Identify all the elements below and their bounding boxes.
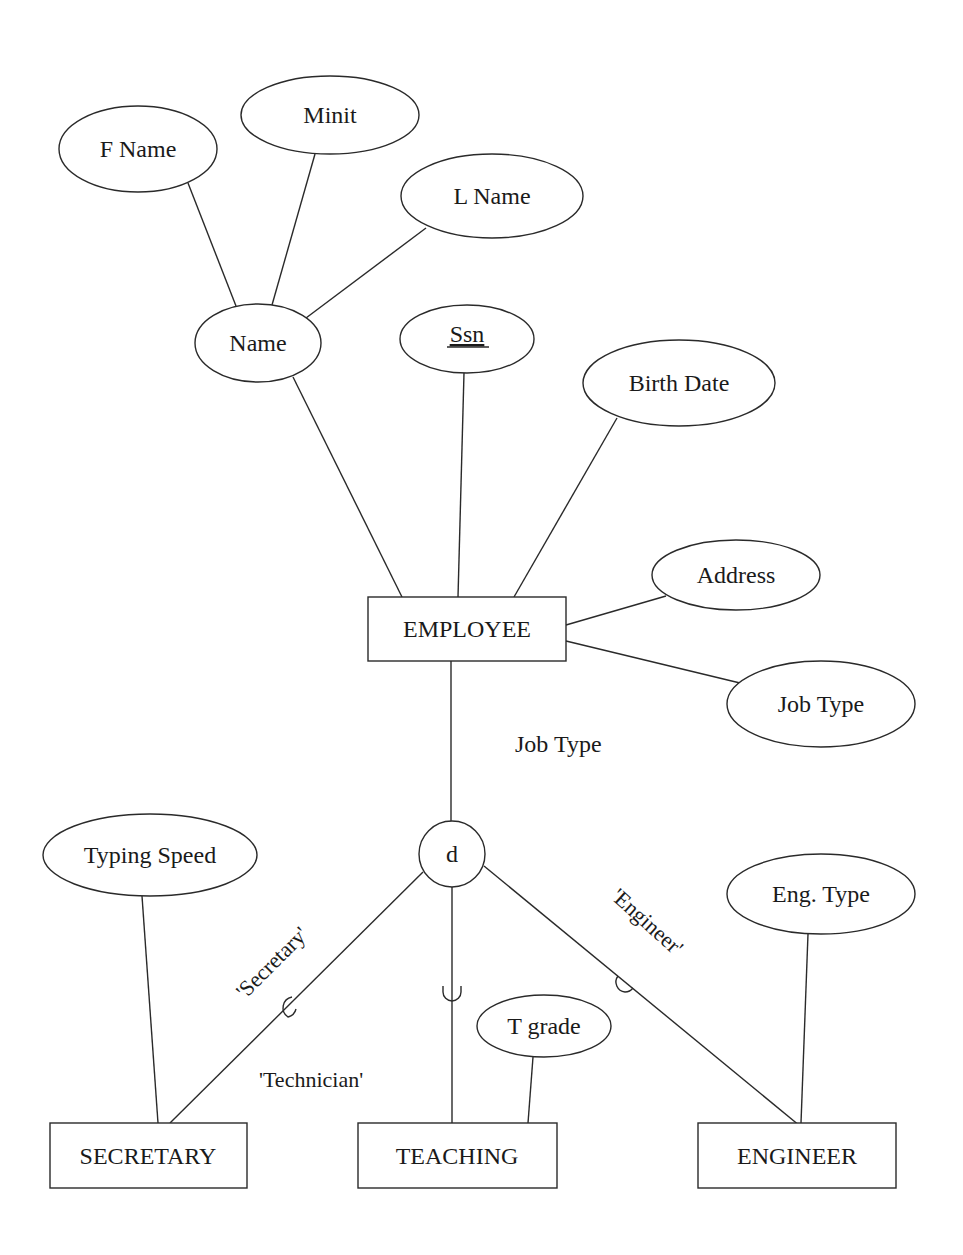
- entity-employee[interactable]: EMPLOYEE: [368, 597, 566, 661]
- er-diagram-canvas: F Name Minit L Name Name Ssn Birth Date …: [0, 0, 963, 1255]
- edge-engtype-engineer: [801, 934, 808, 1123]
- edge-fname-name: [188, 183, 236, 306]
- edge-minit-name: [272, 154, 315, 305]
- key-attribute-label: Ssn: [450, 321, 485, 347]
- attribute-label: L Name: [453, 183, 530, 209]
- attribute-name[interactable]: Name: [195, 304, 321, 382]
- subset-symbol-engineer-icon: [616, 976, 633, 992]
- attribute-label: F Name: [100, 136, 177, 162]
- attribute-label: T grade: [507, 1013, 581, 1039]
- attribute-label: Name: [229, 330, 286, 356]
- attribute-engtype[interactable]: Eng. Type: [727, 854, 915, 934]
- defining-attribute-label: Job Type: [515, 731, 602, 757]
- branch-label-engineer: 'Engineer': [607, 883, 689, 960]
- entity-teaching[interactable]: TEACHING: [358, 1123, 557, 1188]
- disjoint-symbol: d: [446, 841, 458, 867]
- edge-typingspeed-secretary: [142, 896, 158, 1123]
- attribute-typingspeed[interactable]: Typing Speed: [43, 814, 257, 896]
- entity-label: ENGINEER: [737, 1143, 857, 1169]
- attribute-jobtype[interactable]: Job Type: [727, 661, 915, 747]
- entity-label: TEACHING: [396, 1143, 519, 1169]
- attribute-ssn-key[interactable]: Ssn: [400, 305, 534, 373]
- branch-label-technician: 'Technician': [259, 1067, 363, 1092]
- attribute-address[interactable]: Address: [652, 540, 820, 610]
- entity-label: EMPLOYEE: [403, 616, 531, 642]
- attributes: F Name Minit L Name Name Ssn Birth Date …: [43, 76, 915, 1057]
- attribute-label: Typing Speed: [84, 842, 216, 868]
- edge-tgrade-teaching: [528, 1057, 533, 1123]
- attribute-lname[interactable]: L Name: [401, 154, 583, 238]
- edge-address-employee: [566, 596, 666, 625]
- attribute-birthdate[interactable]: Birth Date: [583, 340, 775, 426]
- attribute-fname[interactable]: F Name: [59, 106, 217, 192]
- attribute-tgrade[interactable]: T grade: [477, 995, 611, 1057]
- attribute-label: Address: [697, 562, 776, 588]
- edge-birthdate-employee: [514, 418, 617, 597]
- entity-engineer[interactable]: ENGINEER: [698, 1123, 896, 1188]
- attribute-label: Birth Date: [629, 370, 730, 396]
- branch-label-secretary: 'Secretary': [231, 921, 313, 1003]
- attribute-label: Job Type: [778, 691, 865, 717]
- entity-label: SECRETARY: [80, 1143, 217, 1169]
- edge-lname-name: [306, 228, 426, 318]
- edge-jobtype-employee: [566, 641, 740, 683]
- attribute-label: Eng. Type: [772, 881, 870, 907]
- attribute-label: Minit: [303, 102, 357, 128]
- edge-ssn-employee: [458, 373, 464, 597]
- disjoint-specialization-circle[interactable]: d: [419, 821, 485, 887]
- entity-secretary[interactable]: SECRETARY: [50, 1123, 247, 1188]
- attribute-minit[interactable]: Minit: [241, 76, 419, 154]
- edge-name-employee: [293, 377, 402, 597]
